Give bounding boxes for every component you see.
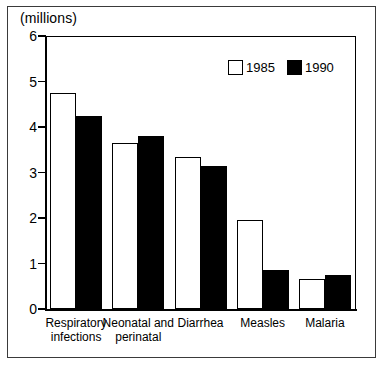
legend-label-1985: 1985 — [246, 61, 275, 74]
x-axis-category-label: Malaria — [288, 316, 362, 330]
legend-item-1990: 1990 — [287, 60, 334, 75]
legend-swatch-filled-icon — [287, 60, 302, 75]
bar-series1 — [50, 93, 76, 309]
bar-series1 — [112, 143, 138, 309]
bar-series1 — [237, 220, 263, 309]
bar-chart-figure: (millions) 0123456 Respiratory infection… — [0, 0, 384, 366]
bar-series2 — [263, 270, 289, 309]
bar-series2 — [76, 116, 102, 309]
bar-series2 — [325, 275, 351, 309]
bar-series2 — [138, 136, 164, 309]
legend-label-1990: 1990 — [305, 61, 334, 74]
bar-series2 — [201, 166, 227, 309]
bars-layer — [0, 0, 384, 366]
legend-swatch-open-icon — [228, 60, 243, 75]
bar-series1 — [175, 157, 201, 309]
legend-item-1985: 1985 — [228, 60, 275, 75]
legend: 1985 1990 — [228, 60, 334, 75]
bar-series1 — [299, 279, 325, 309]
